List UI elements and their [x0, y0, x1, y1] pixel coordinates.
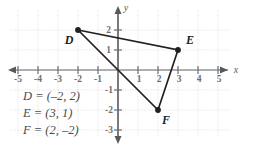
point-f-marker — [155, 107, 161, 113]
vertex-label-f: F — [161, 113, 170, 127]
x-tick-label-pos2: 2 — [157, 74, 162, 84]
coordinate-line-e: E = (3, 1) — [22, 106, 72, 120]
vertex-label-d: D — [64, 33, 74, 47]
y-tick-label-pos2: 2 — [106, 25, 111, 35]
coordinate-line-d: D = (–2, 2) — [22, 89, 80, 103]
coordinate-plane-figure: -5 -4 -3 -2 -1 1 2 3 4 5 2 1 -1 -2 -3 x … — [0, 0, 256, 149]
y-tick-label-neg3: -3 — [105, 125, 113, 135]
y-tick-label-neg2: -2 — [105, 105, 113, 115]
y-axis-label: y — [123, 2, 129, 13]
x-tick-label-pos4: 4 — [197, 74, 202, 84]
x-tick-label-neg4: -4 — [34, 74, 42, 84]
x-tick-label-neg1: -1 — [94, 74, 102, 84]
x-tick-label-neg5: -5 — [14, 74, 22, 84]
x-tick-label-neg2: -2 — [74, 74, 82, 84]
x-tick-label-pos3: 3 — [177, 74, 182, 84]
coordinate-list: D = (–2, 2) E = (3, 1) F = (2, –2) — [22, 89, 80, 137]
vertex-label-e: E — [185, 33, 194, 47]
coordinate-plane-svg: -5 -4 -3 -2 -1 1 2 3 4 5 2 1 -1 -2 -3 x … — [0, 0, 256, 149]
point-d-marker — [75, 27, 81, 33]
y-tick-label-neg1: -1 — [105, 85, 113, 95]
x-tick-label-pos5: 5 — [217, 74, 222, 84]
x-tick-label-neg3: -3 — [54, 74, 62, 84]
y-tick-label-pos1: 1 — [106, 45, 111, 55]
x-axis-label: x — [233, 64, 239, 75]
coordinate-line-f: F = (2, –2) — [22, 123, 79, 137]
point-e-marker — [175, 47, 181, 53]
x-tick-label-pos1: 1 — [137, 74, 142, 84]
